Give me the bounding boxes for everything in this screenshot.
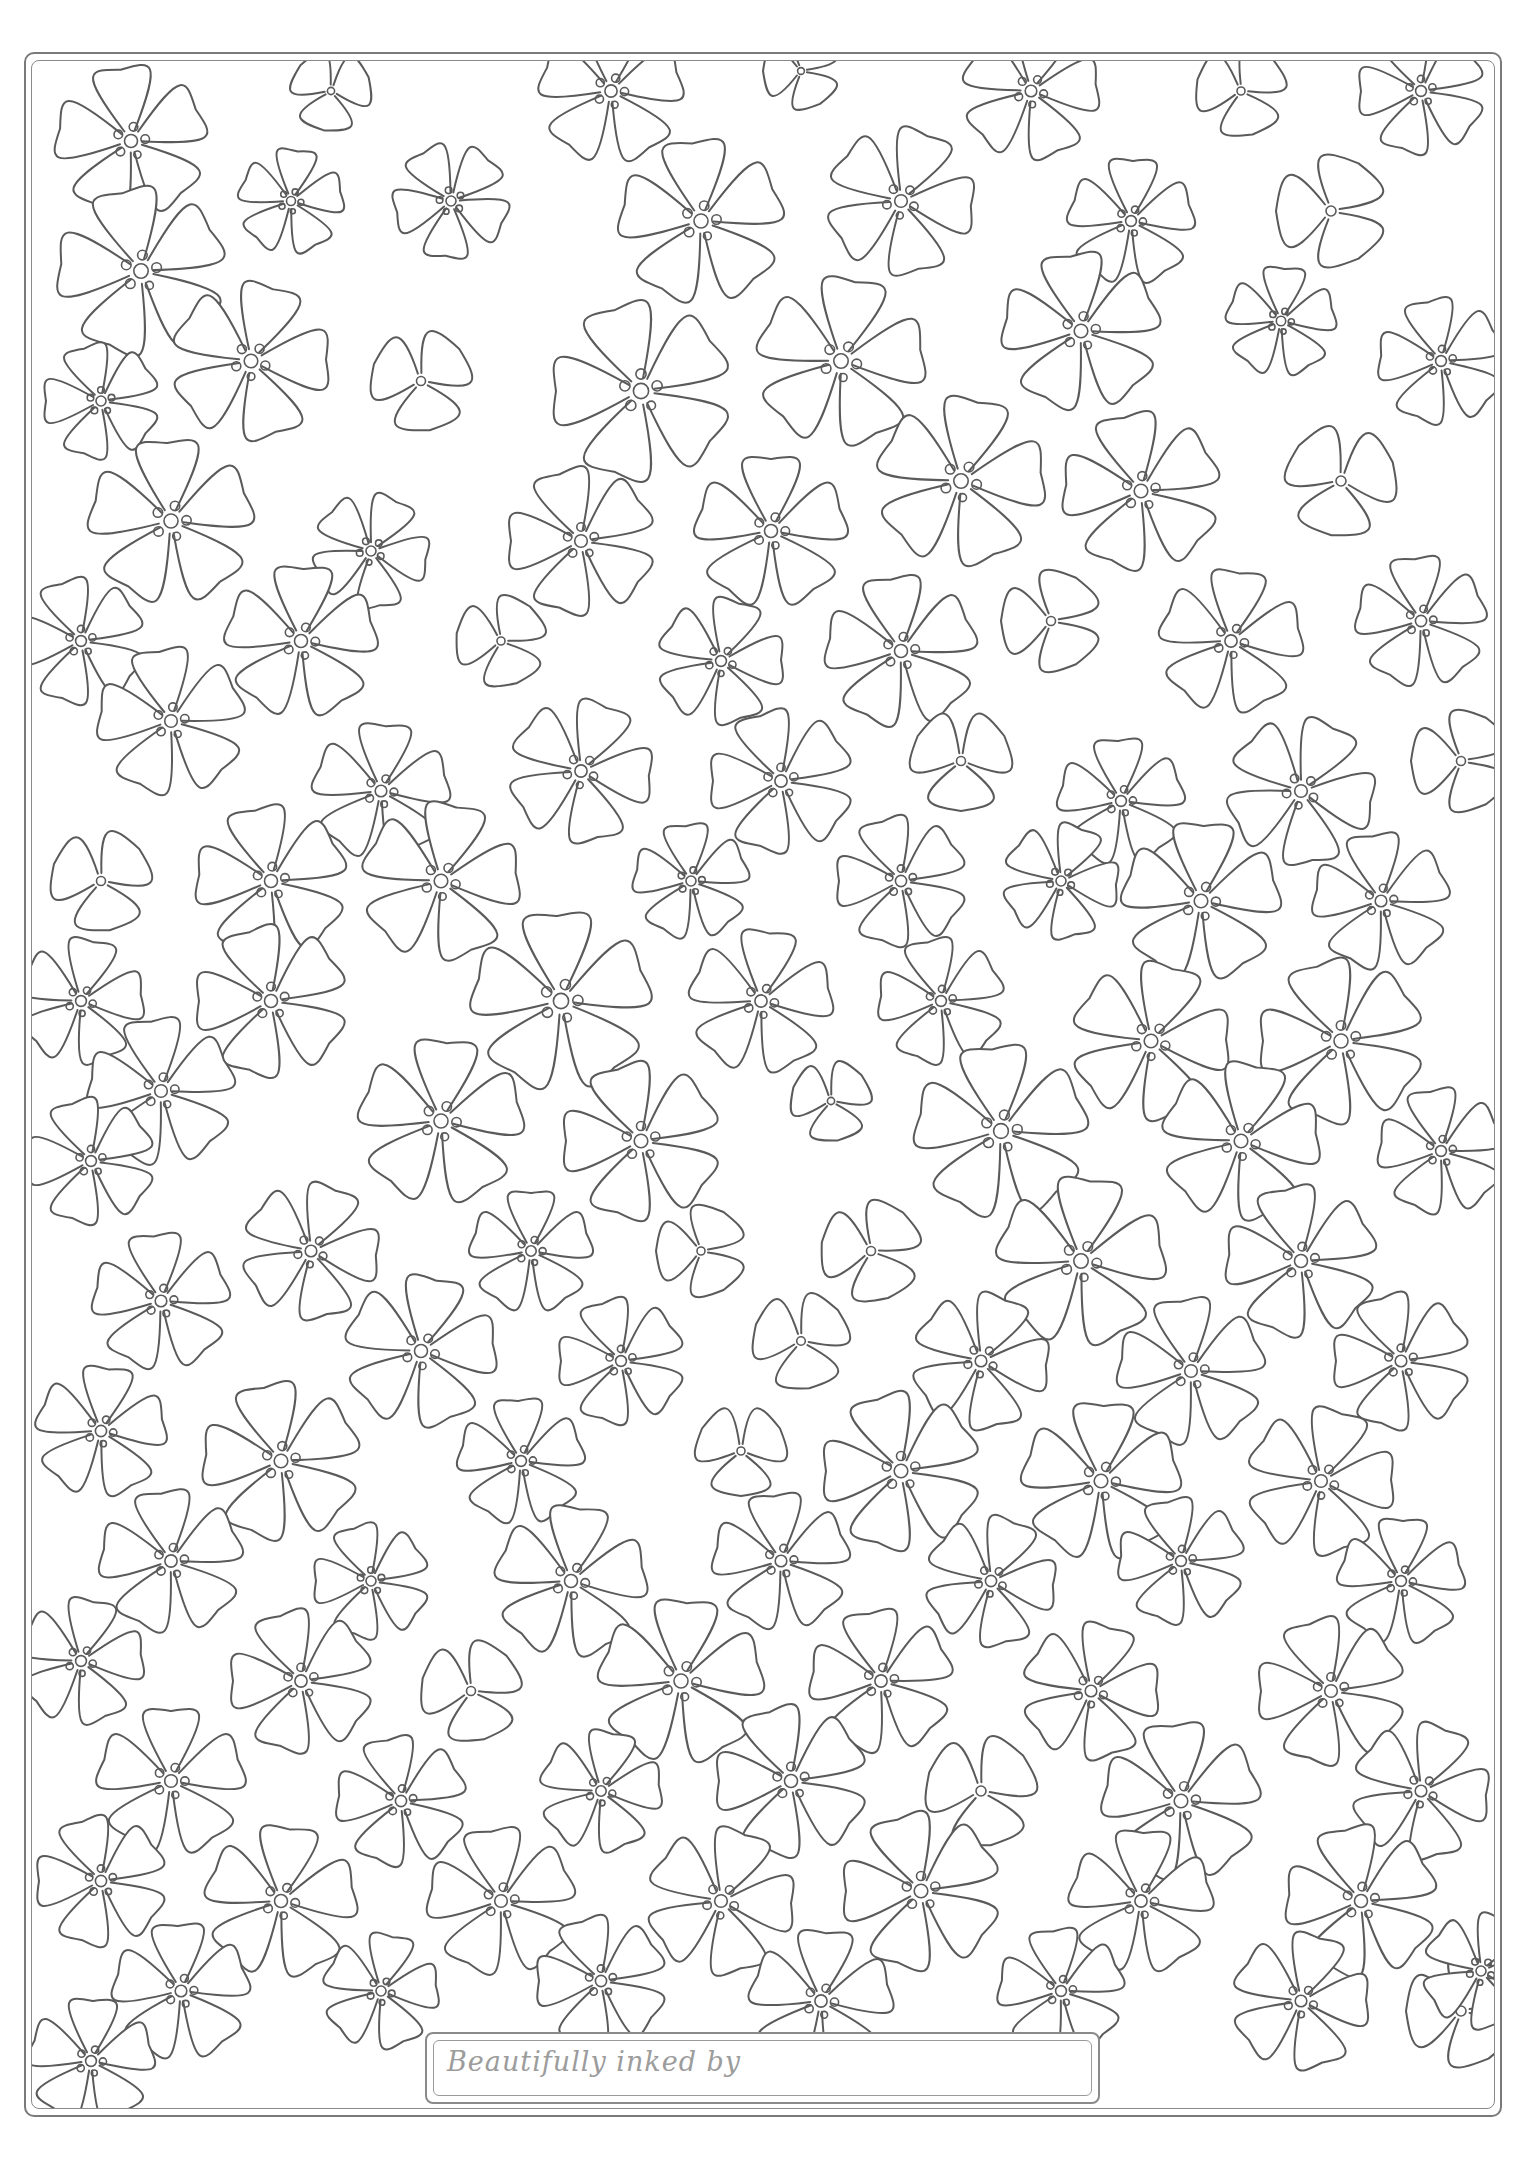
five-petal-flower-icon: [35, 1366, 167, 1497]
five-petal-flower-icon: [99, 1489, 243, 1633]
three-petal-flower-icon: [656, 1205, 744, 1297]
five-petal-flower-icon: [37, 1815, 164, 1948]
three-petal-flower-icon: [753, 1293, 851, 1388]
five-petal-flower-icon: [538, 61, 684, 161]
five-petal-flower-icon: [362, 801, 520, 961]
five-petal-flower-icon: [825, 575, 978, 727]
three-petal-flower-icon: [290, 61, 371, 131]
five-petal-flower-icon: [554, 300, 728, 482]
five-petal-flower-icon: [1159, 569, 1304, 712]
five-petal-flower-icon: [392, 143, 509, 259]
five-petal-flower-icon: [1249, 1406, 1393, 1556]
five-petal-flower-icon: [1068, 1831, 1214, 1972]
five-petal-flower-icon: [88, 440, 255, 602]
three-petal-flower-icon: [695, 1408, 787, 1496]
five-petal-flower-icon: [32, 1999, 155, 2109]
page-border-inner: [31, 60, 1495, 2109]
three-petal-flower-icon: [1411, 710, 1495, 813]
five-petal-flower-icon: [313, 493, 429, 609]
five-petal-flower-icon: [877, 396, 1045, 566]
five-petal-flower-icon: [224, 566, 378, 715]
five-petal-flower-icon: [174, 281, 329, 442]
five-petal-flower-icon: [618, 139, 784, 303]
five-petal-flower-icon: [457, 1399, 585, 1524]
five-petal-flower-icon: [510, 698, 652, 843]
three-petal-flower-icon: [925, 1736, 1037, 1845]
five-petal-flower-icon: [1001, 252, 1160, 410]
five-petal-flower-icon: [509, 466, 653, 616]
five-petal-flower-icon: [694, 457, 848, 605]
colouring-page: Beautifully inked by: [0, 0, 1539, 2169]
five-petal-flower-icon: [32, 1097, 152, 1225]
three-petal-flower-icon: [371, 331, 473, 430]
five-petal-flower-icon: [427, 1827, 576, 1975]
five-petal-flower-icon: [1024, 1621, 1158, 1760]
five-petal-flower-icon: [1355, 556, 1487, 686]
five-petal-flower-icon: [844, 1811, 998, 1972]
three-petal-flower-icon: [763, 61, 837, 110]
flower-pattern: [32, 61, 1495, 2109]
five-petal-flower-icon: [559, 1297, 682, 1425]
signature-label-text: Beautifully inked by: [447, 2046, 741, 2077]
five-petal-flower-icon: [1359, 61, 1482, 155]
five-petal-flower-icon: [469, 1191, 593, 1310]
five-petal-flower-icon: [314, 1522, 427, 1640]
three-petal-flower-icon: [1276, 155, 1383, 268]
five-petal-flower-icon: [470, 913, 652, 1090]
five-petal-flower-icon: [1004, 822, 1119, 939]
three-petal-flower-icon: [791, 1061, 872, 1141]
five-petal-flower-icon: [96, 1709, 246, 1853]
three-petal-flower-icon: [421, 1640, 522, 1741]
five-petal-flower-icon: [1225, 267, 1336, 375]
three-petal-flower-icon: [1001, 570, 1098, 673]
five-petal-flower-icon: [828, 126, 974, 276]
three-petal-flower-icon: [822, 1200, 921, 1302]
five-petal-flower-icon: [238, 148, 344, 253]
signature-label-box[interactable]: Beautifully inked by: [425, 2032, 1100, 2104]
five-petal-flower-icon: [632, 823, 749, 939]
five-petal-flower-icon: [837, 815, 964, 948]
three-petal-flower-icon: [1196, 61, 1287, 136]
five-petal-flower-icon: [1378, 1087, 1495, 1214]
five-petal-flower-icon: [712, 1493, 851, 1630]
five-petal-flower-icon: [44, 342, 157, 460]
five-petal-flower-icon: [1378, 297, 1495, 425]
three-petal-flower-icon: [1285, 426, 1397, 535]
five-petal-flower-icon: [32, 937, 144, 1065]
five-petal-flower-icon: [711, 708, 851, 854]
five-petal-flower-icon: [231, 1608, 371, 1754]
three-petal-flower-icon: [51, 831, 153, 930]
five-petal-flower-icon: [336, 1735, 466, 1867]
five-petal-flower-icon: [1062, 411, 1219, 571]
five-petal-flower-icon: [32, 577, 142, 705]
five-petal-flower-icon: [878, 937, 1004, 1065]
five-petal-flower-icon: [689, 929, 834, 1072]
five-petal-flower-icon: [963, 61, 1100, 160]
five-petal-flower-icon: [1261, 957, 1421, 1124]
five-petal-flower-icon: [243, 1182, 379, 1321]
five-petal-flower-icon: [659, 597, 783, 725]
three-petal-flower-icon: [910, 714, 1013, 811]
three-petal-flower-icon: [457, 595, 546, 687]
five-petal-flower-icon: [1334, 1291, 1467, 1430]
five-petal-flower-icon: [345, 1274, 496, 1427]
five-petal-flower-icon: [323, 1932, 439, 2049]
five-petal-flower-icon: [92, 1233, 231, 1370]
